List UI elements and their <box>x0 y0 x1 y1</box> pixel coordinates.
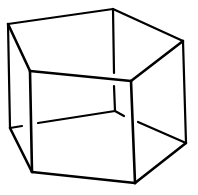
top-face <box>8 9 183 81</box>
bottom-face <box>10 111 186 183</box>
edge-vertical-frontleft <box>30 71 32 172</box>
edge-top-frontright-frontleft <box>30 71 131 81</box>
pentagonal-prism-figure <box>0 0 198 195</box>
edge-top-right-frontright <box>131 41 183 81</box>
edge-vertical-back-lower <box>114 86 115 111</box>
prism-svg <box>0 0 198 195</box>
edge-bottom-frontleft-left <box>10 128 32 172</box>
edge-top-frontleft-left <box>8 24 30 71</box>
edge-top-left-back <box>8 9 113 24</box>
edge-vertical-left <box>8 24 10 128</box>
edge-vertical-right <box>183 41 186 143</box>
edge-top-back-right <box>113 9 183 41</box>
edge-bottom-frontright-frontleft <box>32 172 135 183</box>
edge-bottom-left-back-b <box>38 111 115 123</box>
edge-bottom-left-back-a <box>10 126 22 128</box>
edge-bottom-back-right-a <box>115 111 124 116</box>
edge-bottom-back-right-b <box>138 122 186 143</box>
vertical-edges <box>8 9 186 183</box>
edge-vertical-back-upper <box>113 9 114 73</box>
edge-vertical-frontright <box>131 81 135 183</box>
edge-bottom-right-frontright <box>135 143 186 183</box>
